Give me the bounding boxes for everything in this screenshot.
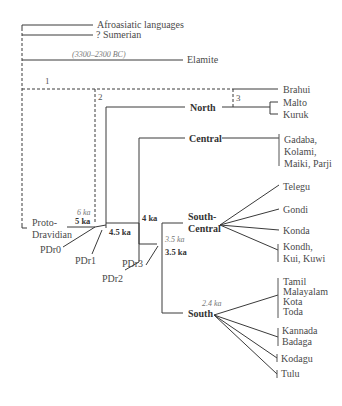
kuruk-label: Kuruk [283,109,309,120]
pdr1-label: PDr1 [75,255,96,266]
proto-label-1: Proto- [32,217,57,228]
tulu-label: Tulu [281,368,300,379]
south-label: South [188,308,213,319]
age-3-5ka-italic: 3.5 ka [164,235,185,244]
kondh-label: Kondh, [283,241,313,252]
root-to-45 [95,225,106,227]
kolami-label: Kolami, [284,146,317,157]
gondi-label: Gondi [283,204,308,215]
pdr3-label: PDr3 [122,258,143,269]
marker-3: 3 [236,93,241,103]
branch-4-to-35 [139,223,157,244]
kui-kuwi-label: Kui, Kuwi [283,253,325,264]
age-3-5ka: 3.5 ka [165,247,187,257]
elamite-label: Elamite [187,54,219,65]
proto-label-2: Dravidian [32,229,72,240]
pdr1-pointer [92,230,102,254]
south-central-fan [220,185,279,250]
brahui-label: Brahui [283,84,310,95]
pdr0-label: PDr0 [40,244,61,255]
root-foot [22,226,27,228]
pdr2-label: PDr2 [102,273,123,284]
maiki-parji-label: Maiki, Parji [284,158,332,169]
marker-1: 1 [45,76,50,86]
toda-label: Toda [283,306,303,317]
dravidian-language-tree: Afroasiatic languages ? Sumerian (3300–2… [0,0,342,406]
kannada-label: Kannada [282,325,318,336]
telegu-label: Telegu [283,181,310,192]
malto-label: Malto [283,97,307,108]
south-central-label-2: Central [188,223,221,234]
kodagu-label: Kodagu [281,353,313,364]
age-4-5ka: 4.5 ka [109,227,131,237]
elamite-date: (3300–2300 BC) [72,50,126,59]
central-label: Central [189,133,222,144]
konda-label: Konda [283,225,310,236]
north-label: North [190,102,216,113]
age-5ka: 5 ka [75,216,91,226]
pdr3-pointer [146,246,158,265]
malto-kuruk-bracket [270,102,278,114]
badaga-label: Badaga [282,336,313,347]
gadaba-label: Gadaba, [284,134,317,145]
south-fan [214,295,278,374]
age-2-4ka: 2.4 ka [202,299,222,308]
north-branch [106,107,185,223]
south-central-label-1: South- [188,211,216,222]
sumerian-label: ? Sumerian [96,29,141,40]
marker-2: 2 [98,92,103,102]
age-4ka: 4 ka [142,213,158,223]
